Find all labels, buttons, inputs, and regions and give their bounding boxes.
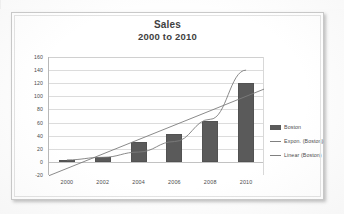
x-tick-2004: 2004 xyxy=(132,179,145,185)
legend-bar-swatch-icon xyxy=(270,125,281,130)
legend-item-2: Linear (Boston) xyxy=(270,149,344,161)
legend-line-swatch-icon xyxy=(270,155,281,156)
plot-area xyxy=(49,57,264,175)
page-scan-artifact xyxy=(0,0,344,9)
x-axis-tick-labels: 200020022004200620082010 xyxy=(49,177,264,191)
y-tick-100: 100 xyxy=(34,93,43,99)
chart-legend: BostonExpon. (Boston)Linear (Boston) xyxy=(270,121,344,163)
expon-trendline xyxy=(67,70,246,160)
y-tick--20: -20 xyxy=(35,172,43,178)
y-tick-160: 160 xyxy=(34,54,43,60)
linear-trendline xyxy=(49,89,264,176)
chart-screenshot: Sales 2000 to 2010 160140120100806040200… xyxy=(0,0,344,214)
chart-container: Sales 2000 to 2010 160140120100806040200… xyxy=(11,12,324,200)
x-tick-2002: 2002 xyxy=(96,179,109,185)
x-tick-2010: 2010 xyxy=(240,179,253,185)
legend-label: Linear (Boston) xyxy=(284,152,322,158)
y-tick-60: 60 xyxy=(37,120,43,126)
legend-label: Expon. (Boston) xyxy=(284,138,323,144)
y-axis-tick-labels: 160140120100806040200-20 xyxy=(26,57,45,175)
y-tick-0: 0 xyxy=(40,159,43,165)
trendlines xyxy=(49,57,264,175)
y-tick-140: 140 xyxy=(34,67,43,73)
chart-title: Sales xyxy=(12,19,323,31)
legend-label: Boston xyxy=(284,124,301,130)
legend-line-swatch-icon xyxy=(270,141,281,142)
x-tick-2008: 2008 xyxy=(204,179,217,185)
legend-item-0: Boston xyxy=(270,121,344,133)
y-tick-40: 40 xyxy=(37,133,43,139)
x-tick-2006: 2006 xyxy=(168,179,181,185)
y-tick-120: 120 xyxy=(34,80,43,86)
chart-subtitle: 2000 to 2010 xyxy=(12,31,323,43)
y-tick-20: 20 xyxy=(37,146,43,152)
plot-area-wrapper: 160140120100806040200-20 200020022004200… xyxy=(26,57,265,193)
legend-item-1: Expon. (Boston) xyxy=(270,135,344,147)
y-tick-80: 80 xyxy=(37,106,43,112)
x-tick-2000: 2000 xyxy=(61,179,74,185)
chart-title-block: Sales 2000 to 2010 xyxy=(12,19,323,43)
